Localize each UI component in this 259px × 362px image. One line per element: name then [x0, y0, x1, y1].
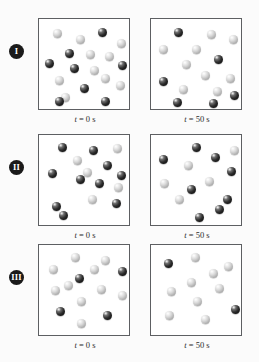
particle-box-1-t0 — [38, 18, 130, 110]
dark-sphere — [76, 175, 85, 184]
dark-sphere — [164, 259, 173, 268]
light-gray-sphere — [118, 291, 127, 300]
light-gray-sphere — [90, 66, 99, 75]
light-gray-sphere — [55, 76, 64, 85]
time-value: 0 — [86, 230, 90, 240]
dark-sphere — [55, 97, 64, 106]
figure-row-1: I t = 0 s t = 50 s — [0, 18, 259, 135]
dark-sphere — [231, 305, 240, 314]
light-gray-sphere — [201, 71, 210, 80]
dark-sphere — [192, 143, 201, 152]
roman-numeral-badge-2: II — [9, 160, 24, 175]
light-gray-sphere — [191, 253, 200, 262]
dark-sphere — [227, 167, 236, 176]
equals-sign: = — [189, 340, 194, 350]
light-gray-sphere — [116, 81, 125, 90]
time-unit: s — [92, 340, 95, 350]
diffusion-figure: I t = 0 s t = 50 s II t — [0, 0, 259, 362]
light-gray-sphere — [184, 161, 193, 170]
dark-sphere — [70, 64, 79, 73]
light-gray-sphere — [101, 256, 110, 265]
panel-2-right: t = 50 s — [150, 134, 244, 240]
time-unit: s — [206, 230, 209, 240]
caption-1-t0: t = 0 s — [38, 114, 132, 124]
equals-sign: = — [189, 114, 194, 124]
dark-sphere — [118, 267, 127, 276]
time-variable: t — [184, 340, 186, 350]
light-gray-sphere — [71, 253, 80, 262]
panel-3-left: t = 0 s — [38, 244, 132, 350]
light-gray-sphere — [215, 284, 224, 293]
light-gray-sphere — [165, 311, 174, 320]
light-gray-sphere — [97, 285, 106, 294]
dark-sphere — [159, 155, 168, 164]
dark-sphere — [187, 185, 196, 194]
dark-sphere — [230, 91, 239, 100]
light-gray-sphere — [213, 87, 222, 96]
light-gray-sphere — [160, 179, 169, 188]
light-gray-sphere — [83, 168, 92, 177]
dark-sphere — [58, 143, 67, 152]
dark-sphere — [98, 28, 107, 37]
equals-sign: = — [189, 230, 194, 240]
light-gray-sphere — [187, 278, 196, 287]
particle-box-2-t0 — [38, 134, 130, 226]
dark-sphere — [101, 97, 110, 106]
light-gray-sphere — [88, 195, 97, 204]
roman-numeral-badge-1: I — [9, 44, 24, 59]
dark-sphere — [118, 61, 127, 70]
light-gray-sphere — [175, 195, 184, 204]
dark-sphere — [159, 77, 168, 86]
time-unit: s — [92, 114, 95, 124]
light-gray-sphere — [113, 144, 122, 153]
time-variable: t — [184, 114, 186, 124]
dark-sphere — [80, 84, 89, 93]
dark-sphere — [52, 202, 61, 211]
time-value: 50 — [196, 114, 205, 124]
dark-sphere — [214, 55, 223, 64]
light-gray-sphere — [76, 35, 85, 44]
dark-sphere — [95, 179, 104, 188]
dark-sphere — [211, 153, 220, 162]
time-value: 50 — [196, 340, 205, 350]
dark-sphere — [103, 161, 112, 170]
dark-sphere — [117, 171, 126, 180]
light-gray-sphere — [90, 265, 99, 274]
light-gray-sphere — [229, 35, 238, 44]
panel-1-left: t = 0 s — [38, 18, 132, 124]
light-gray-sphere — [209, 269, 218, 278]
time-value: 50 — [196, 230, 205, 240]
dark-sphere — [215, 205, 224, 214]
dark-sphere — [174, 28, 183, 37]
caption-2-t0: t = 0 s — [38, 230, 132, 240]
dark-sphere — [209, 99, 218, 108]
light-gray-sphere — [201, 315, 210, 324]
dark-sphere — [59, 211, 68, 220]
time-variable: t — [74, 230, 76, 240]
light-gray-sphere — [117, 39, 126, 48]
dark-sphere — [112, 199, 121, 208]
panel-3-right: t = 50 s — [150, 244, 244, 350]
dark-sphere — [195, 213, 204, 222]
time-value: 0 — [86, 340, 90, 350]
time-value: 0 — [86, 114, 90, 124]
dark-sphere — [48, 169, 57, 178]
light-gray-sphere — [86, 50, 95, 59]
light-gray-sphere — [105, 52, 114, 61]
dark-sphere — [45, 59, 54, 68]
light-gray-sphere — [167, 287, 176, 296]
time-unit: s — [206, 340, 209, 350]
particle-box-2-t50 — [150, 134, 242, 226]
dark-sphere — [173, 98, 182, 107]
light-gray-sphere — [207, 30, 216, 39]
light-gray-sphere — [182, 60, 191, 69]
dark-sphere — [75, 274, 84, 283]
light-gray-sphere — [64, 281, 73, 290]
roman-numeral-badge-3: III — [9, 270, 24, 285]
time-variable: t — [74, 340, 76, 350]
caption-3-t0: t = 0 s — [38, 340, 132, 350]
light-gray-sphere — [49, 265, 58, 274]
light-gray-sphere — [193, 297, 202, 306]
figure-row-3: III t = 0 s t = 50 s — [0, 244, 259, 361]
panel-2-left: t = 0 s — [38, 134, 132, 240]
